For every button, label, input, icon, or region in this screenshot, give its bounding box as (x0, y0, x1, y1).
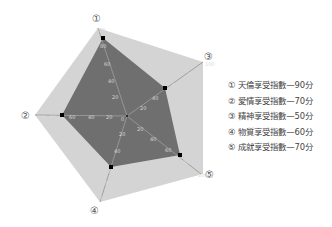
svg-text:100: 100 (100, 195, 110, 201)
legend-item: ⑤ 成就享受指數—70分 (228, 140, 332, 156)
legend-item: ③ 精神享受指數—50分 (228, 109, 332, 125)
svg-text:40: 40 (150, 136, 156, 142)
svg-text:40: 40 (114, 148, 120, 154)
radar-center (126, 115, 128, 117)
svg-text:20: 20 (140, 105, 146, 111)
svg-text:60: 60 (104, 61, 110, 67)
chart-legend: ① 天倫享受指數—90分 ② 愛情享受指數—70分 ③ 精神享受指數—50分 ④… (228, 78, 332, 156)
legend-item: ④ 物質享受指數—60分 (228, 125, 332, 141)
svg-text:40: 40 (88, 114, 94, 120)
svg-text:80: 80 (105, 180, 111, 186)
axis-label-3: ③ (204, 51, 213, 62)
svg-text:40: 40 (152, 95, 158, 101)
axis-label-1: ① (92, 13, 101, 24)
svg-text:20: 20 (112, 94, 118, 100)
svg-text:80: 80 (183, 159, 189, 165)
svg-text:60: 60 (172, 82, 178, 88)
svg-text:80: 80 (100, 43, 106, 49)
svg-text:40: 40 (108, 78, 114, 84)
axis-label-5: ⑤ (205, 169, 214, 180)
axis-label-2: ② (21, 110, 30, 121)
svg-text:20: 20 (119, 131, 125, 137)
svg-text:100: 100 (37, 114, 47, 120)
svg-text:20: 20 (106, 114, 112, 120)
svg-text:80: 80 (188, 71, 194, 77)
axis-label-4: ④ (90, 205, 99, 216)
svg-text:60: 60 (69, 114, 75, 120)
svg-text:20: 20 (137, 126, 143, 132)
legend-item: ② 愛情享受指數—70分 (228, 94, 332, 110)
svg-text:100: 100 (96, 27, 106, 33)
svg-text:60: 60 (165, 147, 171, 153)
svg-text:0: 0 (121, 116, 124, 122)
svg-text:80: 80 (50, 114, 56, 120)
legend-item: ① 天倫享受指數—90分 (228, 78, 332, 94)
